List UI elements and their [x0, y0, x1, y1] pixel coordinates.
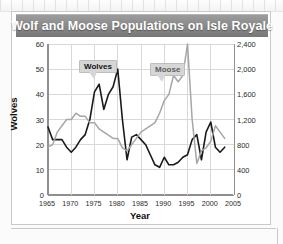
page-divider-horizontal — [11, 228, 276, 229]
moose-series-label: Moose — [150, 63, 185, 76]
y-axis-left-tick: 50 — [22, 65, 44, 74]
y-axis-right-tick: 400 — [237, 165, 263, 174]
y-axis-right-tick: 1,200 — [237, 115, 263, 124]
x-axis-tick: 1990 — [155, 199, 171, 208]
y-axis-left-tick: 30 — [22, 115, 44, 124]
y-axis-left-tick: 40 — [22, 90, 44, 99]
x-axis-tick: 1970 — [62, 199, 78, 208]
x-axis-title: Year — [130, 210, 150, 221]
y-axis-left-title: Wolves — [8, 97, 19, 130]
y-axis-right-tick: 1,600 — [237, 90, 263, 99]
y-axis-left-tick: 60 — [22, 40, 44, 49]
y-axis-right-tick: 800 — [237, 140, 263, 149]
x-axis-tick: 1965 — [39, 199, 55, 208]
series-canvas — [48, 44, 234, 195]
x-axis-tick: 1985 — [132, 199, 148, 208]
wolves-series-label: Wolves — [79, 60, 117, 73]
y-axis-left-tick: 20 — [22, 140, 44, 149]
y-axis-right-tick: 2,400 — [237, 40, 263, 49]
x-axis-tick: 2005 — [225, 199, 241, 208]
x-axis-tick: 1980 — [109, 199, 125, 208]
page-divider-vertical — [277, 228, 278, 244]
moose-label-pointer — [157, 75, 165, 82]
y-axis-right-tick: 2,000 — [237, 65, 263, 74]
chart-title-bar: Wolf and Moose Populations on Isle Royal… — [16, 14, 268, 37]
y-axis-left-tick: 10 — [22, 165, 44, 174]
x-axis-tick: 1995 — [179, 199, 195, 208]
x-axis-tick: 2000 — [202, 199, 218, 208]
x-axis-tick: 1975 — [86, 199, 102, 208]
chart-area: Wolves Moose Year Wolves Moose 010203040… — [11, 38, 271, 225]
chart-page: Wolf and Moose Populations on Isle Royal… — [0, 0, 283, 244]
page-title: Wolf and Moose Populations on Isle Royal… — [11, 19, 273, 33]
wolves-label-pointer — [89, 72, 97, 79]
plot-area — [47, 44, 233, 195]
